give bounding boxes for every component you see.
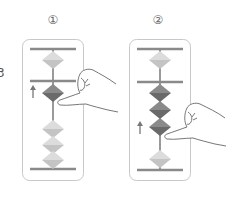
panel-1 xyxy=(23,40,119,181)
panel-2 xyxy=(130,40,227,181)
abacus-diagram: 3 ① ② xyxy=(0,0,240,201)
